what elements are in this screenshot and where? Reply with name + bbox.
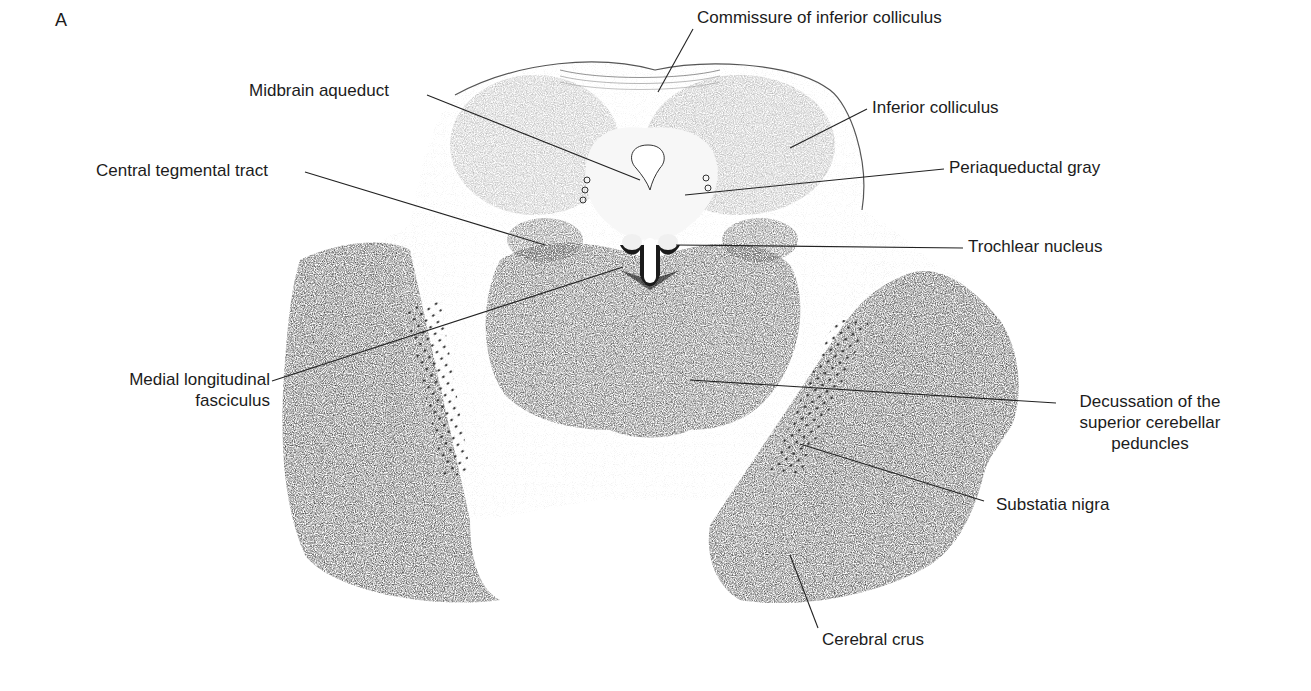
label-inferior-colliculus: Inferior colliculus <box>872 97 999 118</box>
label-decussation-line1: Decussation of the <box>1061 391 1239 412</box>
label-mlf-line2: fasciculus <box>96 390 270 411</box>
label-decussation-line2: superior cerebellar <box>1061 412 1239 433</box>
midbrain-illustration <box>0 0 1311 691</box>
label-substantia-nigra: Substatia nigra <box>996 494 1109 515</box>
label-central-tegmental-tract: Central tegmental tract <box>96 160 268 181</box>
label-decussation-line3: peduncles <box>1061 433 1239 454</box>
label-trochlear-nucleus: Trochlear nucleus <box>968 236 1103 257</box>
label-periaqueductal-gray: Periaqueductal gray <box>949 157 1100 178</box>
midbrain-section-figure: A <box>0 0 1311 691</box>
label-midbrain-aqueduct: Midbrain aqueduct <box>249 80 389 101</box>
label-mlf-line1: Medial longitudinal <box>96 369 270 390</box>
label-medial-longitudinal-fasciculus: Medial longitudinal fasciculus <box>96 369 270 411</box>
label-cerebral-crus: Cerebral crus <box>822 629 924 650</box>
label-commissure-inferior-colliculus: Commissure of inferior colliculus <box>697 7 942 28</box>
label-decussation-superior-cerebellar-peduncles: Decussation of the superior cerebellar p… <box>1061 391 1239 454</box>
